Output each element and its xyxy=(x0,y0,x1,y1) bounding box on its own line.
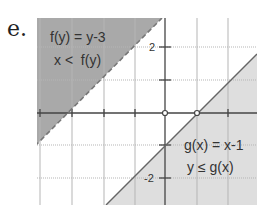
g-inequality-label: y ≤ g(x) xyxy=(187,159,234,175)
open-point-x1 xyxy=(195,111,200,116)
inequality-graph: 2 -2 f(y) = y-3 x < f(y) g(x) = x-1 y ≤ … xyxy=(0,0,260,213)
open-point-origin xyxy=(163,111,168,116)
y-tick-2: 2 xyxy=(149,41,155,53)
g-function-label: g(x) = x-1 xyxy=(184,137,244,153)
f-inequality-label: x < f(y) xyxy=(54,52,101,68)
y-tick-neg2: -2 xyxy=(144,172,154,184)
f-function-label: f(y) = y-3 xyxy=(50,29,106,45)
